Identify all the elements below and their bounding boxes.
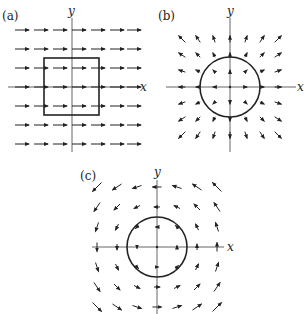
- vector-arrow: [260, 132, 264, 139]
- vector-arrow: [174, 286, 180, 289]
- vector-field-figure: (a)xy(b)xy(c)xy: [0, 0, 304, 314]
- vector-arrow: [216, 223, 219, 232]
- vector-arrow: [275, 70, 282, 72]
- vector-arrow: [245, 102, 247, 104]
- vector-arrow: [179, 53, 186, 57]
- vector-arrow: [194, 284, 200, 290]
- panel-label: (c): [80, 169, 96, 183]
- vector-arrow: [275, 102, 282, 104]
- vector-arrow: [245, 36, 247, 43]
- vector-arrow: [133, 306, 142, 309]
- vector-arrow: [133, 186, 142, 189]
- vector-arrow: [196, 53, 200, 57]
- vector-arrow: [179, 132, 186, 139]
- vector-arrow: [179, 70, 186, 72]
- panel-b: (b)xy: [158, 4, 304, 152]
- vector-arrow: [260, 36, 264, 43]
- vector-arrow: [260, 70, 264, 72]
- x-axis-label: x: [227, 240, 234, 254]
- vector-arrow: [260, 117, 264, 121]
- vector-arrow: [196, 36, 200, 43]
- vector-arrow: [245, 70, 247, 72]
- vector-arrow: [173, 186, 182, 189]
- vector-arrow: [96, 263, 99, 272]
- vector-arrow: [213, 132, 215, 139]
- vector-arrow: [214, 203, 220, 212]
- vector-arrow: [96, 223, 99, 232]
- vector-arrow: [213, 53, 215, 57]
- vector-arrow: [194, 204, 200, 210]
- vector-arrow: [114, 284, 120, 290]
- vector-arrow: [213, 36, 215, 43]
- vector-arrow: [260, 102, 264, 104]
- vector-arrow: [116, 264, 119, 270]
- vector-arrow: [245, 117, 247, 121]
- square-boundary: [44, 58, 99, 115]
- vector-arrow: [93, 303, 102, 312]
- vector-arrow: [213, 303, 222, 312]
- vector-arrow: [275, 53, 282, 57]
- vector-arrow: [94, 283, 100, 292]
- vector-arrow: [213, 183, 222, 192]
- vector-arrow: [193, 184, 202, 190]
- vector-arrow: [213, 102, 215, 104]
- vector-field-diagrams: (a)xy(b)xy(c)xy: [0, 0, 304, 314]
- vector-arrow: [196, 70, 200, 72]
- panel-c: (c)xy: [80, 165, 234, 314]
- y-axis-label: y: [67, 4, 75, 18]
- vector-arrow: [245, 53, 247, 57]
- vector-arrow: [275, 132, 282, 139]
- y-axis-label: y: [153, 165, 161, 179]
- vector-arrow: [174, 206, 180, 209]
- vector-arrow: [196, 224, 199, 230]
- vector-arrow: [275, 36, 282, 43]
- y-axis-label: y: [226, 4, 234, 18]
- vector-arrow: [179, 36, 186, 43]
- x-axis-label: x: [140, 80, 147, 94]
- vector-arrow: [213, 117, 215, 121]
- vector-arrow: [196, 117, 200, 121]
- vector-arrow: [260, 53, 264, 57]
- panel-a: (a)xy: [2, 4, 147, 152]
- vector-arrow: [113, 304, 122, 310]
- vector-arrow: [116, 224, 119, 230]
- vector-arrow: [134, 286, 140, 289]
- vector-arrow: [179, 102, 186, 104]
- vector-arrow: [173, 306, 182, 309]
- vector-arrow: [193, 304, 202, 310]
- vector-arrow: [196, 132, 200, 139]
- vector-arrow: [275, 117, 282, 121]
- vector-arrow: [113, 184, 122, 190]
- vector-arrow: [93, 183, 102, 192]
- vector-arrow: [245, 132, 247, 139]
- vector-arrow: [179, 117, 186, 121]
- vector-arrow: [134, 206, 140, 209]
- x-axis-label: x: [297, 80, 304, 94]
- panel-label: (b): [158, 9, 175, 23]
- vector-arrow: [214, 283, 220, 292]
- vector-arrow: [196, 264, 199, 270]
- vector-arrow: [196, 102, 200, 104]
- panel-label: (a): [2, 9, 19, 23]
- vector-arrow: [213, 70, 215, 72]
- vector-arrow: [114, 204, 120, 210]
- vector-arrow: [216, 263, 219, 272]
- vector-arrow: [94, 203, 100, 212]
